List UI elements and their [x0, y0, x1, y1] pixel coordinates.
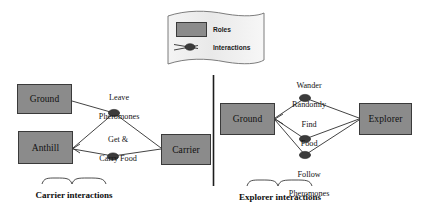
caption-explorer-interactions: Explorer interactions	[228, 192, 332, 202]
legend-interaction-dot	[185, 44, 195, 51]
edge-label-wander-randomly-line2: Randomly	[292, 100, 326, 109]
edge-label-get-carry-food-line2: Carry Food	[99, 154, 137, 163]
role-box-ground-right[interactable]: Ground	[220, 103, 275, 135]
caption-carrier-interactions: Carrier interactions	[22, 190, 126, 200]
edge-label-find-food-line2: Food	[301, 139, 318, 148]
edge-label-follow-pheromones-line1: Follow	[297, 170, 320, 179]
edge-label-find-food-line1: Find	[302, 120, 317, 129]
brace-carrier	[42, 178, 106, 184]
role-box-anthill[interactable]: Anthill	[18, 131, 73, 164]
role-box-ground-left[interactable]: Ground	[17, 84, 72, 114]
legend-interactions-label: Interactions	[213, 44, 250, 51]
role-box-carrier[interactable]: Carrier	[161, 134, 211, 165]
edge-label-leave-pheromones-line1: Leave	[109, 93, 129, 102]
legend-roles-swatch	[176, 22, 207, 37]
edge-label-leave-pheromones: Leave Pheromones	[79, 83, 151, 131]
edge-label-find-food: Find Food	[276, 110, 334, 158]
legend-banner-shape	[168, 11, 264, 64]
edge-label-get-carry-food-line1: Get &	[108, 135, 128, 144]
diagram-canvas: Roles Interactions Ground Anthill Carrie…	[0, 0, 424, 224]
edge-label-wander-randomly-line1: Wander	[296, 81, 321, 90]
role-box-explorer[interactable]: Explorer	[359, 103, 412, 135]
edge-label-leave-pheromones-line2: Pheromones	[99, 112, 139, 121]
legend-roles-label: Roles	[213, 26, 231, 33]
edge-label-get-carry-food: Get & Carry Food	[79, 125, 149, 173]
